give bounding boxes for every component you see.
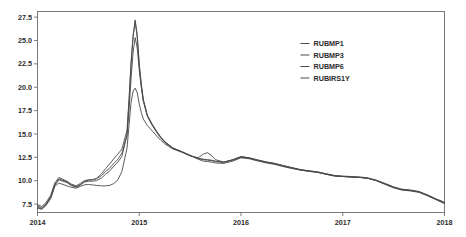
legend-label-rubmp3: RUBMP3 [314,51,344,60]
series-line-rubmp6 [38,22,445,209]
y-tick-label: 17.5 [18,106,32,115]
x-tick-label: 2018 [437,218,453,227]
x-axis-ticks: 20142015201620172018 [30,213,453,228]
x-tick-label: 2015 [131,218,147,227]
line-chart: 20142015201620172018 7.510.012.515.017.5… [0,0,466,237]
y-tick-label: 22.5 [18,59,32,68]
y-tick-label: 15.0 [18,130,32,139]
legend-label-rubmp6: RUBMP6 [314,62,344,71]
y-tick-label: 20.0 [18,83,32,92]
series-line-rubirs1y [38,88,445,209]
chart-container: 20142015201620172018 7.510.012.515.017.5… [0,0,466,237]
y-tick-label: 27.5 [18,13,32,22]
y-axis-ticks: 7.510.012.515.017.520.022.525.027.5 [18,13,38,209]
y-tick-label: 25.0 [18,36,32,45]
x-tick-label: 2014 [30,218,46,227]
legend-label-rubirs1y: RUBIRS1Y [314,74,351,83]
x-tick-label: 2016 [233,218,249,227]
chart-legend: RUBMP1RUBMP3RUBMP6RUBIRS1Y [301,39,351,83]
legend-label-rubmp1: RUBMP1 [314,39,344,48]
y-tick-label: 12.5 [18,153,32,162]
series-line-rubmp1 [38,20,445,208]
x-tick-label: 2017 [335,218,351,227]
y-tick-label: 7.5 [22,200,32,209]
y-tick-label: 10.0 [18,176,32,185]
series-lines [38,20,445,209]
series-line-rubmp3 [38,38,445,207]
